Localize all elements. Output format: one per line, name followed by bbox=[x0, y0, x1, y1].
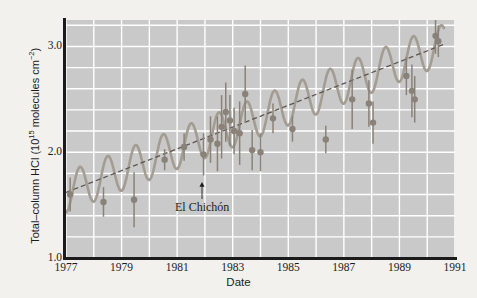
y-axis-line bbox=[63, 18, 66, 260]
data-point bbox=[218, 95, 224, 158]
x-tick-label: 1983 bbox=[211, 262, 255, 274]
data-point bbox=[207, 116, 213, 163]
x-tick-label: 1981 bbox=[155, 262, 199, 274]
x-tick-label: 1977 bbox=[44, 262, 88, 274]
data-point bbox=[100, 187, 106, 217]
x-tick-label: 1979 bbox=[100, 262, 144, 274]
data-point bbox=[403, 57, 409, 95]
x-tick-label: 1985 bbox=[266, 262, 310, 274]
x-axis-line bbox=[63, 257, 457, 260]
x-axis-title: Date bbox=[0, 276, 477, 288]
y-axis-title: Total–column HCl (1015 molecules cm−2) bbox=[27, 26, 41, 266]
data-point bbox=[257, 133, 263, 171]
data-point bbox=[323, 126, 329, 154]
x-tick-label: 1991 bbox=[433, 262, 477, 274]
data-layer bbox=[66, 20, 455, 258]
hcl-trend-figure: 1.02.03.0 Total–column HCl (1015 molecul… bbox=[0, 0, 477, 298]
el-chichon-label: El Chichón bbox=[175, 200, 229, 215]
data-point bbox=[249, 130, 255, 170]
x-tick-label: 1989 bbox=[377, 262, 421, 274]
x-tick-label: 1987 bbox=[322, 262, 366, 274]
data-point bbox=[370, 101, 376, 143]
data-point bbox=[131, 172, 137, 227]
data-point bbox=[223, 82, 229, 141]
el-chichon-arrow-icon bbox=[197, 182, 207, 199]
data-point bbox=[270, 104, 276, 134]
plot-area bbox=[66, 20, 455, 258]
